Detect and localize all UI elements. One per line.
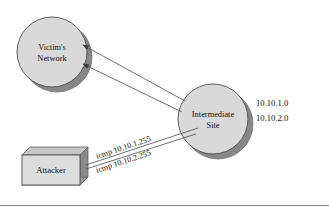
network-address-label-1: 10.10.1.0 <box>256 98 288 108</box>
attacker-box-top-face <box>22 147 88 155</box>
victim-network-label-line1: Victim's <box>38 43 66 52</box>
edge-group-reflected-traffic <box>83 45 185 112</box>
node-intermediate-site[interactable]: Intermediate Site <box>178 84 253 159</box>
network-diagram: Victim's Network Intermediate Site Attac… <box>0 0 329 216</box>
victim-network-circle <box>17 17 87 87</box>
victim-network-label-line2: Network <box>37 54 67 63</box>
network-address-label-2: 10.10.2.0 <box>256 113 288 123</box>
edge-intermediate-to-victim-1 <box>83 45 185 101</box>
node-victim-network[interactable]: Victim's Network <box>17 17 92 92</box>
intermediate-site-label-line2: Site <box>206 121 219 130</box>
edge-intermediate-to-victim-2 <box>83 64 182 112</box>
diagram-canvas: Victim's Network Intermediate Site Attac… <box>0 0 329 216</box>
intermediate-site-circle <box>178 84 248 154</box>
intermediate-site-label-line1: Intermediate <box>192 110 235 119</box>
node-attacker[interactable]: Attacker <box>22 147 88 185</box>
attacker-label: Attacker <box>36 165 66 175</box>
